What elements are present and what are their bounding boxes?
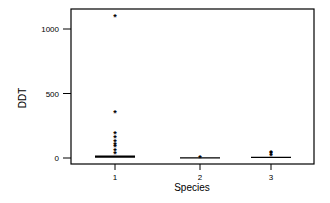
boxes: ************* [95,12,291,163]
box-species-2: * [180,153,220,163]
x-tick-label: 2 [198,173,203,182]
y-tick-label: 1000 [41,25,59,34]
y-tick-label: 0 [55,154,60,163]
x-tick-label: 3 [269,173,274,182]
outlier-marker: * [113,12,117,22]
box-plot: 05001000 123 ************* DDT Species [0,0,330,203]
box-species-3: *** [251,148,291,161]
box-species-1: ********* [95,12,135,159]
y-axis-title: DDT [17,88,28,109]
outlier-marker: * [269,151,273,161]
outlier-marker: * [113,149,117,159]
x-axis-title: Species [174,182,210,193]
y-axis: 05001000 [41,25,71,163]
x-axis: 123 [113,164,274,182]
x-tick-label: 1 [113,173,118,182]
y-tick-label: 500 [46,90,60,99]
plot-frame [71,9,314,164]
outlier-marker: * [113,108,117,118]
outlier-marker: * [198,153,202,163]
